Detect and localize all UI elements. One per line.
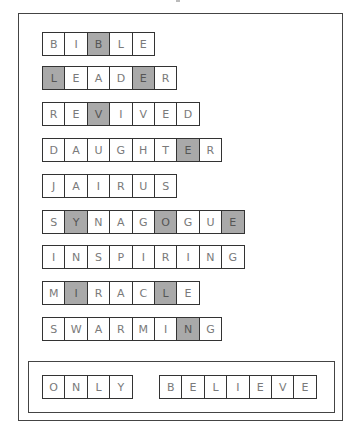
letter-cell: I	[132, 245, 155, 269]
letter-cell-shaded: L	[42, 66, 65, 90]
letter-cell: N	[64, 245, 87, 269]
letter-cell: I	[64, 32, 87, 56]
answer-letter-cell: N	[64, 375, 87, 399]
answer-letter-cell: O	[42, 375, 65, 399]
letter-cell: R	[87, 281, 110, 305]
answer-letter-cell: Y	[109, 375, 132, 399]
letter-cell: V	[132, 102, 155, 126]
letter-cell-shaded: E	[176, 138, 199, 162]
letter-cell: E	[154, 102, 177, 126]
letter-cell: A	[64, 174, 87, 198]
answer-word-believe: BELIEVE	[159, 375, 317, 399]
letter-cell: D	[42, 138, 65, 162]
letter-cell: A	[87, 317, 110, 341]
word-row-revived: REVIVED	[42, 102, 200, 126]
answer-letter-cell: I	[226, 375, 249, 399]
letter-cell: R	[154, 245, 177, 269]
letter-cell: D	[109, 66, 132, 90]
letter-cell: R	[109, 317, 132, 341]
answer-letter-cell: L	[87, 375, 110, 399]
letter-cell: N	[199, 245, 222, 269]
letter-cell: R	[199, 138, 222, 162]
letter-cell: G	[132, 210, 155, 234]
letter-cell: R	[154, 66, 177, 90]
letter-cell: M	[132, 317, 155, 341]
letter-cell: E	[64, 66, 87, 90]
letter-cell: I	[109, 102, 132, 126]
letter-cell: H	[132, 138, 155, 162]
letter-cell: J	[42, 174, 65, 198]
letter-cell: A	[109, 210, 132, 234]
letter-cell: M	[42, 281, 65, 305]
letter-cell: I	[154, 317, 177, 341]
letter-cell-shaded: Y	[64, 210, 87, 234]
answer-letter-cell: E	[293, 375, 316, 399]
letter-cell: G	[199, 317, 222, 341]
word-row-daughter: DAUGHTER	[42, 138, 222, 162]
letter-cell-shaded: L	[154, 281, 177, 305]
letter-cell: U	[87, 138, 110, 162]
answer-letter-cell: E	[181, 375, 204, 399]
letter-cell: D	[176, 102, 199, 126]
word-row-inspiring: INSPIRING	[42, 245, 245, 269]
letter-cell: G	[109, 138, 132, 162]
letter-cell: I	[176, 245, 199, 269]
letter-cell: L	[109, 32, 132, 56]
letter-cell: U	[199, 210, 222, 234]
letter-cell: C	[132, 281, 155, 305]
letter-cell: E	[176, 281, 199, 305]
letter-cell: E	[64, 102, 87, 126]
answer-letter-cell: L	[204, 375, 227, 399]
word-row-synagogue: SYNAGOGUE	[42, 210, 245, 234]
letter-cell: S	[42, 317, 65, 341]
letter-cell: S	[42, 210, 65, 234]
letter-cell: T	[154, 138, 177, 162]
word-row-jairus: JAIRUS	[42, 174, 177, 198]
letter-cell-shaded: V	[87, 102, 110, 126]
letter-cell: I	[42, 245, 65, 269]
letter-cell: P	[109, 245, 132, 269]
letter-cell: W	[64, 317, 87, 341]
letter-cell-shaded: N	[176, 317, 199, 341]
letter-cell: B	[42, 32, 65, 56]
letter-cell: G	[176, 210, 199, 234]
answer-word-only: ONLY	[42, 375, 133, 399]
letter-cell: N	[87, 210, 110, 234]
cropped-title-remnant	[176, 0, 180, 2]
letter-cell: A	[64, 138, 87, 162]
word-row-miracle: MIRACLE	[42, 281, 200, 305]
answer-letter-cell: E	[249, 375, 272, 399]
letter-cell: R	[42, 102, 65, 126]
letter-cell-shaded: I	[64, 281, 87, 305]
word-row-swarming: SWARMING	[42, 317, 222, 341]
answer-letter-cell: B	[159, 375, 182, 399]
answer-letter-cell: V	[271, 375, 294, 399]
letter-cell: E	[132, 32, 155, 56]
letter-cell-shaded: E	[132, 66, 155, 90]
letter-cell: U	[132, 174, 155, 198]
letter-cell-shaded: O	[154, 210, 177, 234]
letter-cell-shaded: E	[221, 210, 244, 234]
letter-cell: A	[87, 66, 110, 90]
word-row-bible: BIBLE	[42, 32, 155, 56]
letter-cell: I	[87, 174, 110, 198]
letter-cell: R	[109, 174, 132, 198]
letter-cell: G	[221, 245, 244, 269]
letter-cell: S	[87, 245, 110, 269]
letter-cell-shaded: B	[87, 32, 110, 56]
letter-cell: A	[109, 281, 132, 305]
word-row-leader: LEADER	[42, 66, 177, 90]
letter-cell: S	[154, 174, 177, 198]
